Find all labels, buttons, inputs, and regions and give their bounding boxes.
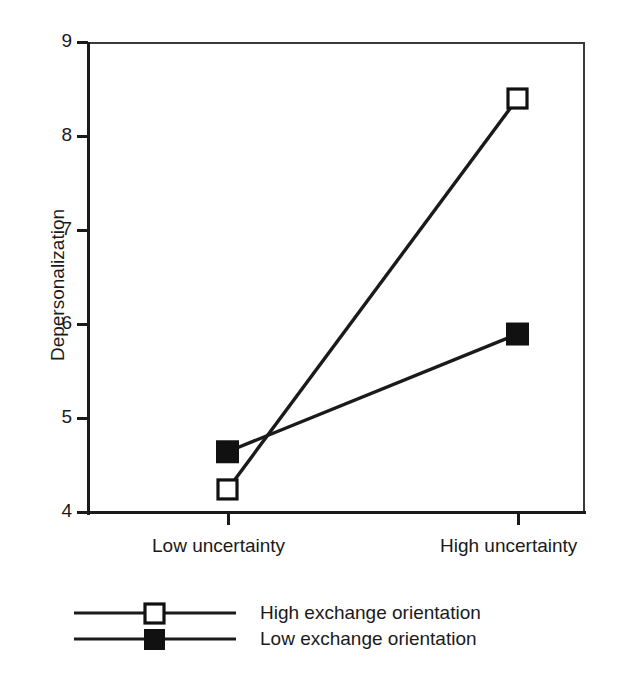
plot-area [88,42,585,513]
y-tick-5 [77,417,88,420]
legend-row-low-exchange: Low exchange orientation [72,626,542,654]
legend-key-high-exchange [72,600,238,626]
depersonalization-interaction-chart: 9 8 7 6 5 4 Depersonalization Low uncert… [0,0,618,688]
x-tick-high-uncertainty [517,513,520,525]
legend-label-low-exchange: Low exchange orientation [260,628,477,650]
y-tick-label-9: 9 [44,31,72,50]
y-tick-4 [77,511,88,514]
x-tick-low-uncertainty [227,513,230,525]
y-tick-6 [77,323,88,326]
y-axis-spine [87,42,90,515]
x-tick-label-high-uncertainty: High uncertainty [440,535,577,557]
y-tick-9 [77,41,88,44]
filled-square-icon [145,630,164,649]
legend-row-high-exchange: High exchange orientation [72,600,542,628]
y-tick-label-4: 4 [44,501,72,520]
y-tick-8 [77,135,88,138]
y-tick-label-8: 8 [44,125,72,144]
open-square-icon [145,604,164,623]
x-tick-label-low-uncertainty: Low uncertainty [152,535,285,557]
legend-label-high-exchange: High exchange orientation [260,602,481,624]
x-axis-spine [87,511,586,514]
legend-key-low-exchange [72,626,238,652]
y-tick-7 [77,229,88,232]
legend: High exchange orientation Low exchange o… [72,600,542,666]
y-axis-title: Depersonalization [47,155,69,415]
